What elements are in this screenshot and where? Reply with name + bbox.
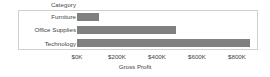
bar-row: Technology	[0, 37, 270, 50]
bar-row: Office Supplies	[0, 23, 270, 36]
category-axis-header: Category	[18, 0, 76, 10]
bar-furniture[interactable]	[77, 13, 99, 21]
x-axis-title: Gross Profit	[0, 63, 270, 70]
x-tick-label: $400K	[148, 52, 166, 61]
bar-row-label: Office Supplies	[10, 23, 76, 36]
bar-row-label: Furniture	[10, 10, 76, 23]
x-tick-label: $600K	[188, 52, 206, 61]
x-tick-label: $200K	[108, 52, 126, 61]
bar-office-supplies[interactable]	[77, 26, 176, 34]
x-tick-label: $800K	[228, 52, 246, 61]
bar-row: Furniture	[0, 10, 270, 23]
bar-row-label: Technology	[10, 37, 76, 50]
bar-chart: Category FurnitureOffice SuppliesTechnol…	[0, 0, 270, 77]
bar-rows: FurnitureOffice SuppliesTechnology	[0, 10, 270, 50]
x-tick-label: $0K	[71, 52, 82, 61]
bar-technology[interactable]	[77, 39, 250, 47]
